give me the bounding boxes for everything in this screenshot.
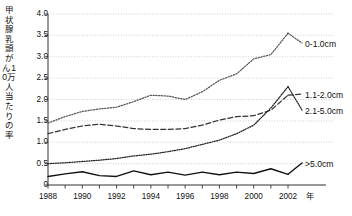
legend-label-2.1-5.0cm: 2.1-5.0cm xyxy=(305,107,343,116)
x-tick-1994: 1994 xyxy=(142,193,160,201)
x-tick-2002: 2002 xyxy=(279,193,297,201)
x-tick-1988: 1988 xyxy=(39,193,57,201)
legend-label->5.0cm: >5.0cm xyxy=(305,160,333,169)
x-axis-unit-label: 年 xyxy=(306,193,314,201)
x-tick-1998: 1998 xyxy=(210,193,228,201)
x-tick-1996: 1996 xyxy=(176,193,194,201)
legend-label-0-1.0cm: 0-1.0cm xyxy=(305,40,336,49)
thyroid-papillary-cancer-rate-chart: 甲状腺乳頭がん10万人当たりの率 4.03.53.02.52.01.51.00.… xyxy=(0,0,352,216)
x-tick-1990: 1990 xyxy=(73,193,91,201)
x-tick-1992: 1992 xyxy=(107,193,125,201)
legend-label-1.1-2.0cm: 1.1-2.0cm xyxy=(305,91,343,100)
x-tick-2000: 2000 xyxy=(245,193,263,201)
x-axis-tick-labels: 19881990199219941996199820002002年 xyxy=(0,0,352,216)
